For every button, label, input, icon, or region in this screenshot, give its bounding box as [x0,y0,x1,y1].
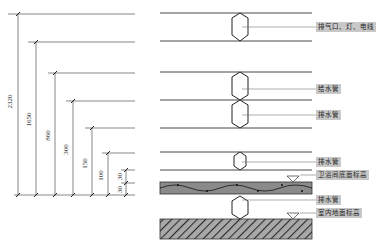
dimension-lines [8,14,135,195]
drain-pipe-upper [232,100,248,128]
installation-height-diagram: 2320 1650 860 300 150 100 30 30 排气口、灯、电线… [0,0,380,245]
label-indoor-floor-elevation: 室内地面标高 [316,208,362,218]
label-bathroom-floor-elevation: 卫浴间底面标高 [316,170,369,180]
dimension-ticks [16,12,128,197]
label-water-supply-pipe: 给水管 [316,84,341,94]
dimension-2320: 2320 [7,95,14,109]
label-drain-pipe-2: 排水管 [316,157,341,167]
dimension-1650: 1650 [26,113,33,127]
label-drain-pipe-1: 排水管 [316,110,341,120]
dimension-100: 100 [98,170,105,181]
drain-pipe-below-slab [232,196,248,219]
label-exhaust-lights-wiring: 排气口、灯、电线 [316,22,376,32]
dimension-30-upper: 30 [117,173,124,180]
label-drain-pipe-3: 排水管 [316,195,341,205]
dimension-300: 300 [63,144,70,155]
water-supply-pipe [232,72,248,100]
elevation-marker-indoor [287,213,299,219]
bathroom-floor-slab [160,176,312,194]
dimension-860: 860 [45,130,52,141]
elevation-marker-bathroom [287,176,299,182]
dimension-30-lower: 30 [117,186,124,193]
drain-pipe-bathroom [234,152,246,170]
dimension-150: 150 [82,158,89,169]
